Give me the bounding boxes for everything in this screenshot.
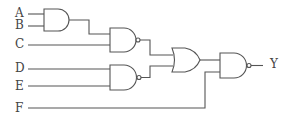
or-gate-4 xyxy=(172,48,220,72)
input-label-f: F xyxy=(15,101,23,115)
output-label-y: Y xyxy=(269,57,279,71)
input-label-e: E xyxy=(15,79,24,93)
input-label-d: D xyxy=(15,61,25,75)
nand-gate-3 xyxy=(110,65,173,90)
input-label-c: C xyxy=(15,37,24,51)
and-gate-1 xyxy=(44,9,110,34)
input-label-b: B xyxy=(15,18,24,32)
logic-circuit-diagram: A B C D E F Y xyxy=(0,0,292,123)
nand-gate-2 xyxy=(110,28,173,55)
nand-gate-5 xyxy=(220,53,263,78)
